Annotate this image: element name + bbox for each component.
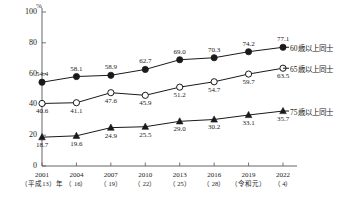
data-point-label: 19.6 xyxy=(65,140,87,148)
series-marker xyxy=(39,100,45,106)
data-point-label: 29.0 xyxy=(169,125,191,133)
data-point-label: 33.1 xyxy=(238,119,260,127)
series-marker xyxy=(142,66,148,72)
data-point-label: 58.9 xyxy=(100,63,122,71)
legend-item: 60歳以上同士 xyxy=(290,42,333,53)
series-marker xyxy=(177,84,183,90)
x-axis-era-year: （ 4） xyxy=(257,180,309,188)
series-marker xyxy=(39,79,45,85)
data-point-label: 51.2 xyxy=(169,91,191,99)
legend-item: 75歳以上同士 xyxy=(290,106,333,117)
x-axis-year: 2010 xyxy=(138,171,152,179)
data-point-label: 41.1 xyxy=(65,107,87,115)
data-point-label: 30.2 xyxy=(203,123,225,131)
series-marker xyxy=(142,92,148,98)
chart-container: % 020406080100 2001（平成13）年2004（ 16）2007（… xyxy=(0,0,350,197)
x-axis-year: 2001 xyxy=(35,171,49,179)
data-point-label: 18.7 xyxy=(31,141,53,149)
series-marker xyxy=(245,71,251,77)
x-axis-year: 2013 xyxy=(173,171,187,179)
data-point-label: 62.7 xyxy=(134,57,156,65)
x-axis-year: 2022 xyxy=(276,171,290,179)
series-marker xyxy=(108,72,114,78)
x-axis-year: 2016 xyxy=(207,171,221,179)
data-point-label: 54.7 xyxy=(203,86,225,94)
series-marker xyxy=(211,79,217,85)
data-point-label: 59.7 xyxy=(238,78,260,86)
data-point-label: 25.5 xyxy=(134,131,156,139)
y-axis-tick-label: 100 xyxy=(11,7,37,16)
y-axis-tick-label: 0 xyxy=(11,161,37,170)
data-point-label: 54.4 xyxy=(31,70,53,78)
data-point-label: 58.1 xyxy=(65,65,87,73)
series-marker xyxy=(245,49,251,55)
x-axis-year: 2007 xyxy=(104,171,118,179)
series-marker xyxy=(280,107,287,113)
x-axis-year: 2004 xyxy=(69,171,83,179)
data-point-label: 45.9 xyxy=(134,99,156,107)
series-marker xyxy=(211,55,217,61)
data-point-label: 47.6 xyxy=(100,97,122,105)
legend-item: 65歳以上同士 xyxy=(290,63,333,74)
series-marker xyxy=(73,100,79,106)
data-point-label: 69.0 xyxy=(169,48,191,56)
x-axis-year: 2019 xyxy=(242,171,256,179)
series-marker xyxy=(73,73,79,79)
x-axis-tick-label: 2022（ 4） xyxy=(257,171,309,188)
y-axis-tick-label: 20 xyxy=(11,130,37,139)
series-marker xyxy=(177,57,183,63)
y-axis-tick-label: 80 xyxy=(11,38,37,47)
data-point-label: 40.6 xyxy=(31,107,53,115)
data-point-label: 70.3 xyxy=(203,46,225,54)
data-point-label: 24.9 xyxy=(100,132,122,140)
series-marker xyxy=(108,90,114,96)
data-point-label: 74.2 xyxy=(238,40,260,48)
